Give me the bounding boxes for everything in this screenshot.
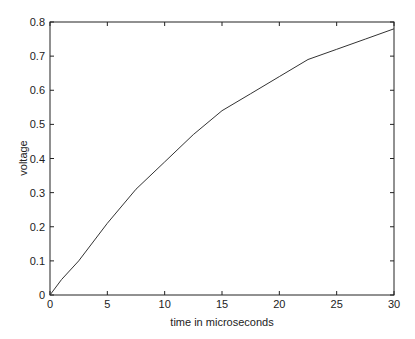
y-tick-label: 0.6 bbox=[30, 84, 45, 96]
x-tick-label: 15 bbox=[216, 298, 228, 310]
line-chart: 051015202530 00.10.20.30.40.50.60.70.8 t… bbox=[0, 0, 415, 339]
y-tick-label: 0.8 bbox=[30, 16, 45, 28]
plot-area bbox=[50, 22, 394, 295]
x-axis-label: time in microseconds bbox=[170, 316, 274, 328]
x-tick-label: 10 bbox=[159, 298, 171, 310]
x-tick-label: 5 bbox=[104, 298, 110, 310]
x-tick-label: 0 bbox=[47, 298, 53, 310]
y-tick-label: 0.3 bbox=[30, 187, 45, 199]
y-tick-label: 0.4 bbox=[30, 153, 45, 165]
y-tick-label: 0 bbox=[39, 289, 45, 301]
x-tick-label: 25 bbox=[331, 298, 343, 310]
y-tick-label: 0.7 bbox=[30, 50, 45, 62]
y-axis-label: voltage bbox=[17, 140, 29, 175]
y-tick-label: 0.2 bbox=[30, 221, 45, 233]
x-tick-label: 30 bbox=[388, 298, 400, 310]
y-tick-label: 0.5 bbox=[30, 118, 45, 130]
x-tick-label: 20 bbox=[273, 298, 285, 310]
y-tick-label: 0.1 bbox=[30, 255, 45, 267]
